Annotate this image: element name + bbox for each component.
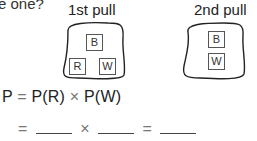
first-pull-label: 1st pull — [68, 1, 116, 18]
answer-line: = × = — [2, 120, 200, 138]
answer-equals-1: = — [18, 120, 27, 137]
ball-b: B — [208, 31, 225, 48]
formula-term2: P(W) — [84, 88, 121, 105]
ball-w: W — [208, 53, 225, 70]
answer-times: × — [80, 120, 89, 137]
probability-formula: P = P(R) × P(W) — [2, 88, 121, 106]
formula-lhs: P — [2, 88, 13, 105]
formula-equals: = — [17, 88, 27, 105]
formula-term1: P(R) — [31, 88, 65, 105]
answer-blank-2[interactable] — [98, 121, 134, 134]
answer-equals-2: = — [143, 120, 152, 137]
second-pull-bag-outline — [180, 20, 252, 82]
formula-times: × — [70, 88, 80, 105]
answer-blank-3[interactable] — [160, 121, 196, 134]
second-pull-label: 2nd pull — [194, 1, 247, 18]
ball-b: B — [86, 34, 103, 51]
ball-r: R — [69, 58, 86, 75]
answer-blank-1[interactable] — [36, 121, 72, 134]
question-text: e one? — [0, 0, 44, 12]
ball-w: W — [99, 58, 116, 75]
